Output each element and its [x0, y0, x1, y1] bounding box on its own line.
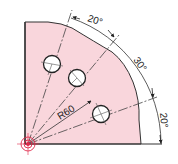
angle-label-middle: 30° [131, 55, 149, 74]
hole-2 [69, 70, 86, 87]
angle-label-bottom: 20° [158, 112, 170, 128]
arc-arrow-2 [108, 30, 114, 37]
technical-drawing: 20° 30° 20° R60 [0, 0, 178, 164]
